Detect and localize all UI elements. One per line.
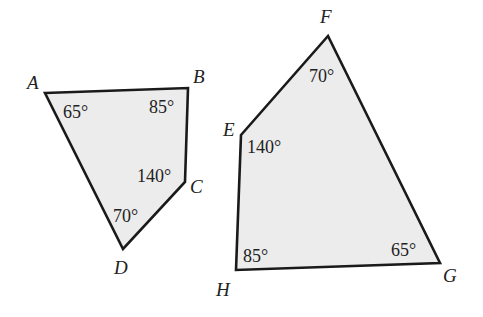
diagram-canvas: A B C D 65° 85° 140° 70° E F G H 70° 140… bbox=[0, 0, 483, 317]
quadrilateral-efgh: E F G H 70° 140° 85° 65° bbox=[215, 6, 457, 300]
vertex-label-h: H bbox=[215, 279, 231, 300]
angle-label-e: 140° bbox=[247, 137, 281, 157]
angle-label-f: 70° bbox=[309, 66, 334, 86]
vertex-label-g: G bbox=[443, 265, 457, 286]
vertex-label-f: F bbox=[319, 6, 332, 27]
angle-label-g: 65° bbox=[391, 240, 416, 260]
vertex-label-e: E bbox=[222, 119, 235, 140]
angle-label-d: 70° bbox=[113, 206, 138, 226]
vertex-label-d: D bbox=[113, 257, 128, 278]
vertex-label-c: C bbox=[190, 176, 203, 197]
diagram-svg: A B C D 65° 85° 140° 70° E F G H 70° 140… bbox=[0, 0, 483, 317]
angle-label-b: 85° bbox=[149, 97, 174, 117]
angle-label-a: 65° bbox=[63, 102, 88, 122]
vertex-label-a: A bbox=[25, 72, 39, 93]
quadrilateral-abcd: A B C D 65° 85° 140° 70° bbox=[25, 66, 205, 278]
angle-label-c: 140° bbox=[137, 166, 171, 186]
vertex-label-b: B bbox=[193, 66, 205, 87]
angle-label-h: 85° bbox=[243, 246, 268, 266]
